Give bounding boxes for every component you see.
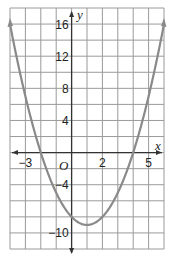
tick-labels: −325161284−4−10 — [19, 18, 153, 241]
y-axis-down-arrow-icon — [69, 248, 74, 254]
y-tick-label: 8 — [62, 82, 69, 96]
origin-label: O — [59, 158, 69, 173]
x-tick-label: −3 — [19, 156, 33, 170]
parabola-graph: −325161284−4−10 x y O — [0, 0, 173, 264]
y-tick-label: 4 — [62, 114, 69, 128]
y-tick-label: 16 — [55, 18, 69, 32]
x-tick-label: 5 — [145, 156, 152, 170]
x-tick-label: 2 — [99, 156, 106, 170]
curve-left-arrow-icon — [8, 18, 14, 27]
y-axis-up-arrow-icon — [69, 11, 74, 17]
y-tick-label: 12 — [55, 50, 69, 64]
y-axis-label: y — [75, 7, 83, 22]
y-tick-label: −10 — [48, 226, 69, 240]
x-axis-left-arrow-icon — [12, 150, 18, 155]
curve-right-arrow-icon — [161, 18, 167, 27]
y-tick-label: −4 — [55, 178, 69, 192]
x-axis-label: x — [154, 138, 161, 153]
